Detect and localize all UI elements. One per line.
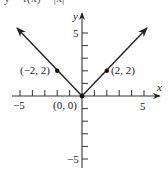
point-left-label: (−2, 2) <box>20 64 50 77</box>
y-max-tick-label: 5 <box>73 27 79 39</box>
right-branch-line <box>82 28 147 96</box>
absolute-value-plot: y x 5 −5 −5 5 (−2, 2) (2, 2) (0, 0) <box>0 0 168 173</box>
y-axis-label: y <box>72 10 78 22</box>
point-origin-dot <box>80 94 85 99</box>
x-max-tick-label: 5 <box>140 100 146 112</box>
point-left-dot <box>55 69 59 73</box>
point-origin-label: (0, 0) <box>53 99 77 112</box>
point-right-dot <box>105 69 109 73</box>
x-min-tick-label: −5 <box>13 99 25 111</box>
point-right-label: (2, 2) <box>111 64 135 77</box>
x-axis-label: x <box>156 81 162 93</box>
y-min-tick-label: −5 <box>67 153 79 165</box>
